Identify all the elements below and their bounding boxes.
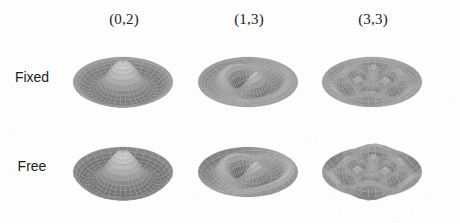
surface-plot-free-1-3 [185, 122, 311, 210]
row-label-free: Free [4, 158, 60, 174]
row-label-fixed: Fixed [4, 69, 60, 85]
surface-plot-free-0-2 [60, 122, 186, 210]
surface-plot-fixed-3-3 [309, 32, 435, 120]
surface-plot-fixed-0-2 [60, 32, 186, 120]
mode-shape-figure: (0,2) (1,3) (3,3) Fixed Free [0, 0, 459, 223]
surface-plot-fixed-1-3 [185, 32, 311, 120]
surface-plot-free-3-3 [309, 122, 435, 210]
column-header-mode-0: (0,2) [64, 11, 184, 28]
column-header-mode-1: (1,3) [189, 11, 309, 28]
column-header-mode-2: (3,3) [313, 11, 433, 28]
